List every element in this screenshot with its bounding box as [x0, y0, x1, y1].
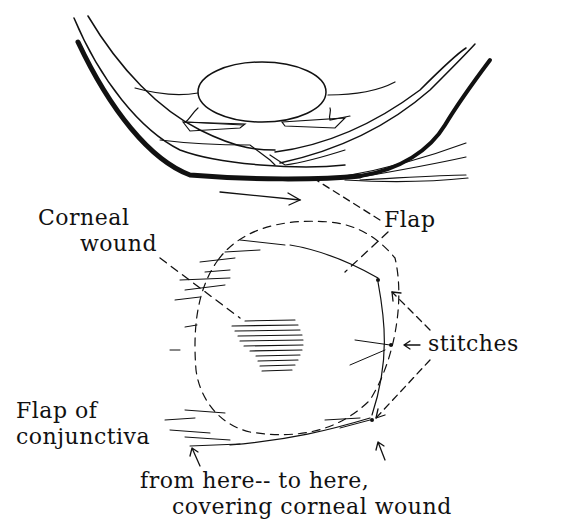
label-flap: Flap: [384, 207, 436, 233]
label-from-here-to-here: from here-- to here,: [140, 468, 369, 494]
label-stitches: stitches: [428, 331, 519, 357]
eye-front-view: [160, 221, 430, 466]
eye-illustration: [0, 0, 577, 531]
diagram-canvas: Corneal wound Flap stitches Flap of conj…: [0, 0, 577, 531]
corneal-wound-hatching: [232, 320, 303, 371]
conjunctiva-strokes: [165, 240, 390, 446]
eye-cross-section: [74, 16, 490, 220]
label-corneal-wound: Corneal wound: [38, 205, 157, 257]
iris-hatching: [183, 118, 345, 131]
label-covering-corneal-wound: covering corneal wound: [172, 494, 452, 520]
label-flap-of-conjunctiva: Flap of conjunctiva: [16, 398, 150, 450]
